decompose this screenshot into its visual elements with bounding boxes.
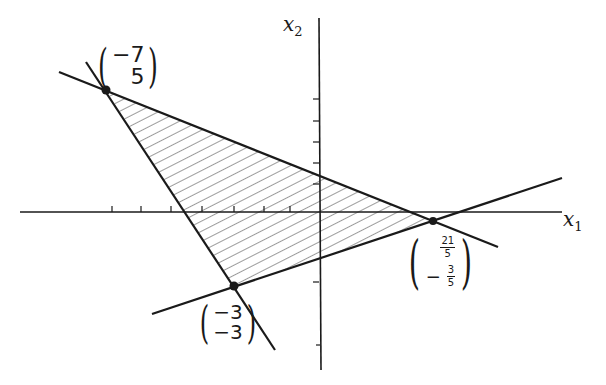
x1-axis-label-var: x: [563, 207, 574, 231]
vertex-label-2: ( −3 −3 ): [196, 300, 260, 344]
x1-axis-label-sub: 1: [574, 219, 582, 234]
left-paren: (: [200, 300, 209, 344]
left-paren: (: [409, 234, 420, 290]
vertex-label-3: ( 21 5 − 3 5 ): [403, 234, 478, 290]
left-paren: (: [98, 42, 108, 90]
vertex-label-3-bottom-fraction: 3 5: [447, 265, 455, 288]
x2-axis: [319, 18, 321, 370]
right-paren: ): [247, 300, 256, 344]
vertex-label-2-bottom: −3: [213, 322, 242, 342]
vertex-label-1-bottom: 5: [130, 66, 144, 88]
x1-axis-label: x1: [563, 207, 583, 234]
feasible-region: [106, 90, 433, 286]
feasible-region-diagram: [0, 0, 606, 385]
vertex-point-3: [429, 217, 437, 225]
right-paren: ): [461, 234, 472, 290]
vertex-label-1: ( −7 5 ): [94, 42, 162, 90]
x2-axis-label: x2: [283, 12, 303, 39]
x2-axis-label-var: x: [283, 12, 294, 36]
x2-axis-label-sub: 2: [294, 24, 302, 39]
vertex-label-3-top-fraction: 21 5: [440, 236, 455, 259]
vertex-point-2: [230, 282, 239, 291]
vertex-label-3-sign: −: [426, 268, 441, 286]
right-paren: ): [148, 42, 158, 90]
vertex-label-2-top: −3: [213, 302, 242, 322]
vertex-label-1-top: −7: [112, 44, 144, 66]
